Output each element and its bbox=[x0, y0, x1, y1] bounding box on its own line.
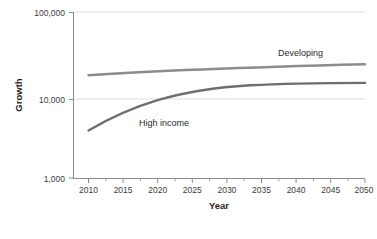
x-tick-label-2010: 2010 bbox=[79, 185, 98, 195]
y-axis-title: Growth bbox=[13, 78, 24, 111]
x-tick-label-2025: 2025 bbox=[183, 185, 202, 195]
y-tick-label-10000: 10,000 bbox=[39, 95, 65, 105]
x-tick-label-2045: 2045 bbox=[321, 185, 340, 195]
y-tick-label-1000: 1,000 bbox=[44, 174, 66, 184]
series-label-developing: Developing bbox=[278, 48, 323, 58]
x-tick-label-2020: 2020 bbox=[148, 185, 167, 195]
x-tick-label-2035: 2035 bbox=[252, 185, 271, 195]
x-tick-label-2040: 2040 bbox=[287, 185, 306, 195]
x-axis-title: Year bbox=[209, 200, 229, 211]
y-tick-label-100000: 100,000 bbox=[34, 8, 65, 18]
x-tick-label-2030: 2030 bbox=[217, 185, 236, 195]
chart-figure: 100,000 10,000 1,000 2010 2015 2020 2025… bbox=[0, 0, 377, 239]
x-tick-label-2050: 2050 bbox=[355, 185, 374, 195]
series-label-high-income: High income bbox=[139, 118, 189, 128]
growth-projection-line-chart: 100,000 10,000 1,000 2010 2015 2020 2025… bbox=[0, 0, 377, 239]
x-tick-label-2015: 2015 bbox=[114, 185, 133, 195]
